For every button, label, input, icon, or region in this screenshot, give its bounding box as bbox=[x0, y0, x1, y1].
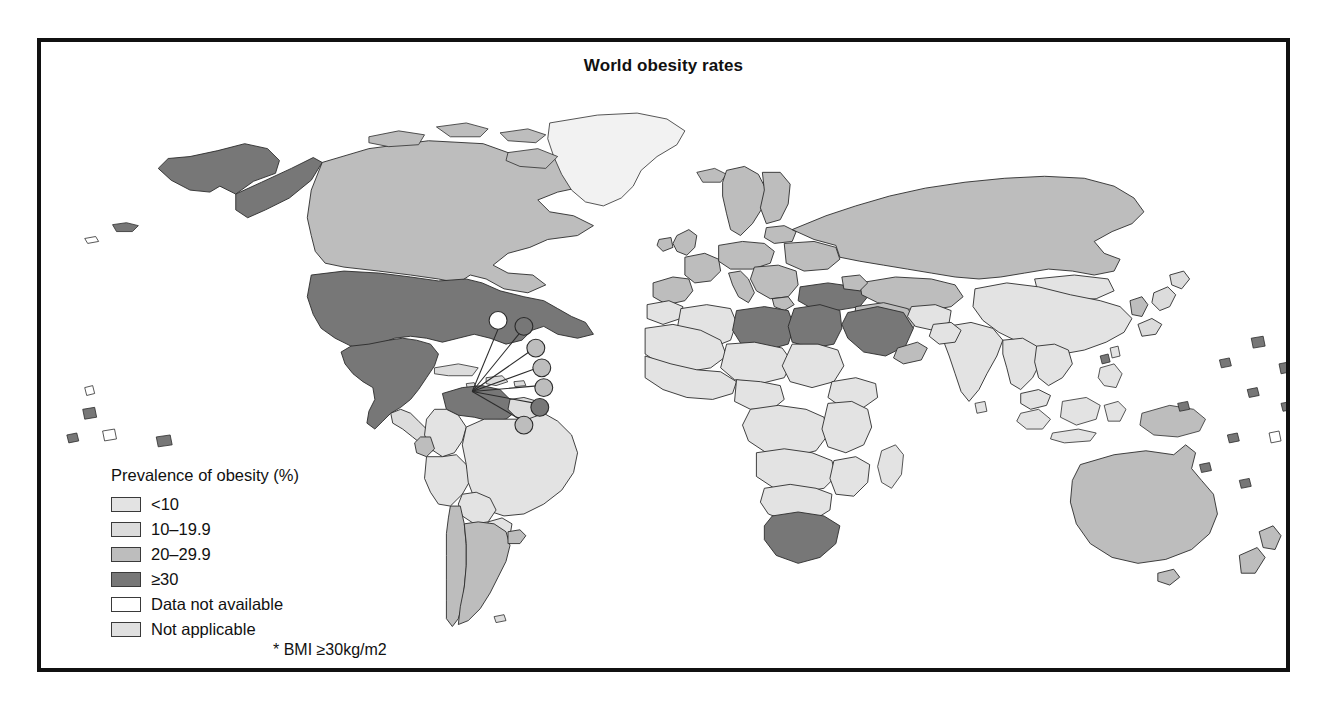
legend-item-30-plus: ≥30 bbox=[111, 567, 299, 592]
region-aleutian-isle-2 bbox=[85, 237, 99, 244]
region-borneo bbox=[1060, 397, 1100, 425]
legend-label-under-10: <10 bbox=[151, 495, 179, 514]
legend-swatch-not-applicable bbox=[111, 622, 141, 637]
island-pacific-7 bbox=[1251, 336, 1265, 348]
region-east-africa bbox=[822, 401, 872, 452]
island-pacific-1 bbox=[85, 386, 95, 396]
region-mexico bbox=[341, 338, 438, 429]
region-balkans bbox=[750, 265, 798, 299]
region-france bbox=[685, 253, 721, 283]
region-madagascar bbox=[878, 445, 904, 488]
map-legend: Prevalence of obesity (%) <10 10–19.9 20… bbox=[111, 466, 299, 642]
region-malaysia bbox=[1021, 390, 1051, 410]
region-hispaniola bbox=[486, 376, 508, 386]
region-japan-south bbox=[1138, 318, 1162, 336]
figure-container: World obesity rates bbox=[0, 0, 1328, 723]
legend-label-no-data: Data not available bbox=[151, 595, 283, 614]
island-pacific-14 bbox=[1200, 463, 1212, 473]
region-russia bbox=[792, 176, 1144, 279]
legend-label-not-applicable: Not applicable bbox=[151, 620, 256, 639]
region-egypt bbox=[788, 305, 842, 348]
island-pacific-13 bbox=[1281, 401, 1286, 411]
callout-marker-4 bbox=[533, 359, 551, 377]
region-united-states bbox=[307, 271, 593, 350]
region-canada bbox=[307, 141, 597, 293]
legend-swatch-20-29 bbox=[111, 547, 141, 562]
region-ecuador bbox=[415, 437, 435, 457]
callout-marker-7 bbox=[515, 416, 533, 434]
region-canada-arctic-1 bbox=[369, 131, 425, 147]
figure-frame: World obesity rates bbox=[37, 38, 1290, 672]
region-canada-arctic-2 bbox=[436, 123, 488, 137]
region-cuba bbox=[434, 364, 478, 376]
callout-marker-2 bbox=[515, 317, 533, 335]
island-pacific-16 bbox=[1100, 354, 1110, 364]
region-finland bbox=[760, 172, 790, 223]
region-norway-sweden bbox=[723, 166, 767, 235]
region-papua-new-guinea bbox=[1140, 405, 1206, 437]
legend-item-10-19: 10–19.9 bbox=[111, 517, 299, 542]
island-pacific-12 bbox=[1269, 431, 1281, 443]
legend-swatch-no-data bbox=[111, 597, 141, 612]
region-south-africa bbox=[764, 512, 840, 563]
region-iceland bbox=[697, 168, 727, 182]
island-pacific-11 bbox=[1227, 433, 1239, 443]
region-falklands bbox=[494, 615, 506, 623]
region-new-zealand-north bbox=[1259, 526, 1281, 550]
region-nigeria bbox=[735, 380, 785, 410]
island-pacific-3 bbox=[67, 433, 79, 443]
region-korea bbox=[1130, 297, 1148, 317]
region-japan-north bbox=[1170, 271, 1190, 289]
region-mozambique bbox=[830, 457, 870, 496]
region-canada-arctic-3 bbox=[500, 129, 546, 143]
legend-label-10-19: 10–19.9 bbox=[151, 520, 211, 539]
region-aleutians bbox=[113, 223, 139, 232]
island-pacific-9 bbox=[1247, 388, 1259, 398]
island-pacific-4 bbox=[103, 429, 117, 441]
legend-item-no-data: Data not available bbox=[111, 592, 299, 617]
region-philippines bbox=[1098, 364, 1122, 388]
region-niger-chad bbox=[721, 342, 793, 383]
region-iberia bbox=[653, 277, 693, 305]
region-australia bbox=[1070, 445, 1217, 563]
legend-item-20-29: 20–29.9 bbox=[111, 542, 299, 567]
region-ireland bbox=[657, 238, 673, 252]
region-italy bbox=[729, 271, 755, 303]
legend-swatch-10-19 bbox=[111, 522, 141, 537]
region-morocco bbox=[647, 301, 683, 325]
legend-item-not-applicable: Not applicable bbox=[111, 617, 299, 642]
region-japan bbox=[1152, 287, 1176, 311]
legend-label-30-plus: ≥30 bbox=[151, 570, 178, 589]
region-new-zealand-south bbox=[1239, 548, 1265, 574]
island-pacific-8 bbox=[1279, 362, 1286, 374]
legend-swatch-under-10 bbox=[111, 497, 141, 512]
region-baltics bbox=[764, 226, 796, 244]
region-germany-poland bbox=[719, 241, 775, 269]
figure-footnote: * BMI ≥30kg/m2 bbox=[273, 641, 387, 659]
callout-marker-6 bbox=[531, 398, 549, 416]
region-indochina bbox=[1035, 344, 1073, 385]
callout-marker-3 bbox=[527, 339, 545, 357]
callout-marker-5 bbox=[535, 379, 553, 397]
region-taiwan bbox=[1110, 346, 1120, 358]
legend-label-20-29: 20–29.9 bbox=[151, 545, 211, 564]
callout-marker-1 bbox=[489, 312, 507, 330]
legend-title: Prevalence of obesity (%) bbox=[111, 466, 299, 485]
region-ukraine bbox=[784, 241, 840, 271]
legend-item-under-10: <10 bbox=[111, 492, 299, 517]
region-greenland bbox=[548, 113, 685, 206]
island-pacific-6 bbox=[1219, 358, 1231, 368]
island-pacific-2 bbox=[83, 407, 97, 419]
region-sri-lanka bbox=[975, 401, 987, 413]
region-java bbox=[1051, 429, 1097, 443]
region-uruguay bbox=[508, 530, 526, 544]
region-tasmania bbox=[1158, 569, 1180, 585]
legend-swatch-30-plus bbox=[111, 572, 141, 587]
island-pacific-15 bbox=[1239, 478, 1251, 488]
region-united-kingdom bbox=[673, 230, 697, 256]
region-sumatra bbox=[1017, 409, 1051, 429]
region-sulawesi bbox=[1104, 401, 1126, 421]
island-pacific-10 bbox=[1178, 401, 1190, 411]
region-argentina bbox=[458, 522, 510, 625]
island-pacific-5 bbox=[156, 435, 172, 447]
